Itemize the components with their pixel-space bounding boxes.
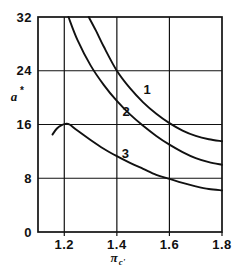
y-axis-title: a* [11, 85, 24, 104]
x-tick-label: 1.6 [160, 237, 180, 252]
y-tick-label: 24 [17, 63, 33, 78]
x-tick-label: 1.2 [54, 237, 74, 252]
y-axis-tick-labels: 08162432 [17, 10, 33, 240]
y-tick-label: 0 [24, 225, 32, 240]
x-axis-tick-labels: 1.21.41.61.8 [54, 237, 231, 252]
curve-label-3: 3 [122, 146, 129, 161]
y-tick-label: 8 [24, 171, 32, 186]
x-axis-title: πc' [110, 250, 125, 267]
chart-figure: 123081624321.21.41.61.8a*πc' [0, 0, 234, 269]
y-tick-label: 16 [17, 117, 32, 132]
x-axis-title-pi: π [110, 250, 118, 265]
x-tick-label: 1.8 [212, 237, 232, 252]
curve-labels: 123 [122, 82, 151, 162]
curve-series-3 [52, 124, 222, 191]
curve-series-1 [89, 17, 222, 141]
data-series-group [52, 17, 222, 190]
x-axis-title-subscript: c' [119, 257, 126, 267]
curve-label-2: 2 [122, 104, 129, 119]
curve-label-1: 1 [143, 82, 150, 97]
chart-plot-area: 123081624321.21.41.61.8a*πc' [0, 0, 234, 269]
y-axis-title-base: a [11, 89, 18, 104]
y-axis-title-star: * [20, 85, 24, 96]
y-tick-label: 32 [17, 10, 32, 25]
